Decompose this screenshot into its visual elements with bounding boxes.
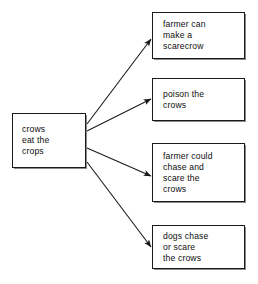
node-target-dogs-chase-or-scare-the-crows[interactable]: dogs chase or scare the crows: [152, 225, 245, 269]
connector-source-to-target-2: [87, 148, 151, 176]
diagram-canvas: crows eat the crops farmer can make a sc…: [0, 0, 258, 284]
node-target-poison-the-crows[interactable]: poison the crows: [152, 78, 245, 121]
connector-source-to-target-3: [87, 162, 151, 247]
node-target-1-label: poison the crows: [153, 89, 204, 111]
connector-source-to-target-0: [87, 39, 151, 124]
node-source-label: crows eat the crops: [13, 124, 49, 157]
node-target-farmer-can-make-a-scarecrow[interactable]: farmer can make a scarecrow: [152, 12, 245, 59]
connector-source-to-target-1: [87, 99, 151, 131]
node-source[interactable]: crows eat the crops: [12, 113, 86, 168]
node-target-3-label: dogs chase or scare the crows: [153, 231, 208, 264]
node-target-2-label: farmer could chase and scare the crows: [153, 151, 213, 195]
node-target-farmer-could-chase-and-scare-the-crows[interactable]: farmer could chase and scare the crows: [152, 143, 245, 202]
node-target-0-label: farmer can make a scarecrow: [153, 19, 206, 52]
